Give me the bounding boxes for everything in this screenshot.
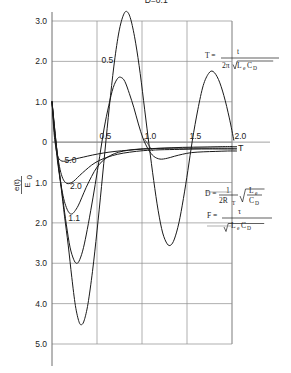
y-axis-tick-label: 0 [42,137,47,147]
x-axis-label: T [238,143,244,153]
formula-T-CD-sub: D [253,65,257,71]
curve-label-0-5: 0.5 [102,55,114,65]
curve-label-D-0-1: D=0.1 [145,0,168,5]
x-axis-tick-label: 1.0 [145,131,157,141]
curve-label-5-0: 5.0 [65,155,77,165]
curve-label-2-0: 2.0 [70,181,82,191]
formula-T-lhs: T = [205,51,216,60]
x-axis-tick-label: 2.0 [235,131,247,141]
chart-canvas: 3.02.01.001.02.03.04.05.00.51.01.52.0Te(… [0,0,291,373]
svg-text:E: E [23,182,32,187]
formula-D-rad-den: C [249,196,254,205]
formula-F-Le-sub: e [237,225,240,231]
y-axis-tick-label: 3.0 [35,16,47,26]
formula-D-lhs: D = [205,189,217,198]
y-axis-tick-label: 3.0 [35,258,47,268]
formula-D-rad-num: L [249,186,254,195]
formula-D-rad-den-sub: D [255,200,259,206]
y-axis-tick-label: 4.0 [35,299,47,309]
formula-D-frac-num: 1 [226,186,230,195]
formula-F-CD-sub: D [247,225,251,231]
y-axis-tick-label: 2.0 [35,56,47,66]
y-axis-tick-label: 1.0 [35,97,47,107]
formula-D-frac-den: 2R [219,196,228,205]
formula-F-CD: C [241,221,246,230]
svg-text:e(t): e(t) [12,179,21,191]
formula-F-numerator: τ [238,207,241,216]
formula-T-denominator-prefix: 2π [222,61,230,70]
y-axis-tick-label: 5.0 [35,339,47,349]
y-axis-tick-label: 2.0 [35,218,47,228]
chart-figure: 3.02.01.001.02.03.04.05.00.51.01.52.0Te(… [0,0,291,373]
x-axis-tick-label: 1.5 [190,131,202,141]
formula-T-numerator: t [237,47,240,56]
curve-2-0 [52,102,237,184]
svg-text:0: 0 [25,175,34,180]
formula-F-Le: L [231,221,236,230]
curve-label-1-1: 1.1 [68,213,80,223]
formula-T-Le: L [237,61,242,70]
formula-T-Le-sub: e [243,65,246,71]
x-axis-tick-label: 0.5 [100,131,112,141]
y-axis-tick-label: 1.0 [35,178,47,188]
formula-T-CD: C [247,61,252,70]
formula-F-lhs: F = [207,211,217,220]
y-axis-label: e(t)E0 [12,175,34,195]
formula-D-frac-den-sub: T [232,200,236,206]
